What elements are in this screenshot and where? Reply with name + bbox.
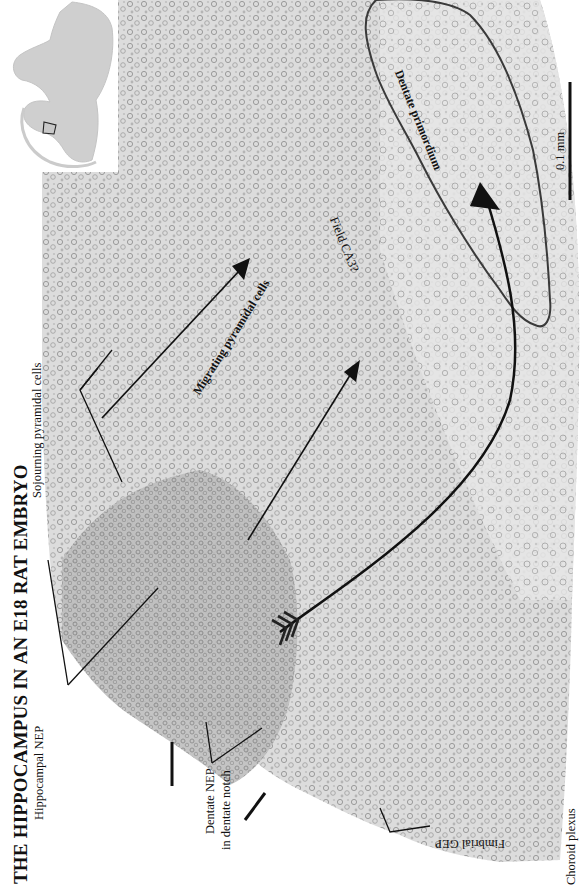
micrograph bbox=[0, 0, 583, 887]
figure-title: THE HIPPOCAMPUS IN AN E18 RAT EMBRYO bbox=[10, 464, 32, 884]
histology-figure: THE HIPPOCAMPUS IN AN E18 RAT EMBRYO Soj… bbox=[0, 0, 583, 887]
scale-bar-label: 0.1 mm bbox=[553, 132, 568, 170]
label-choroid-plexus: Choroid plexus bbox=[564, 808, 579, 885]
label-sojourning-pyramidal-cells: Sojourning pyramidal cells bbox=[30, 363, 45, 498]
label-dentate-notch: in dentate notch bbox=[219, 770, 234, 850]
label-dentate-nep: Dentate NEP bbox=[203, 768, 218, 834]
inset-overview bbox=[0, 0, 118, 172]
label-fimbrial-gep: Fimbrial GEP bbox=[425, 836, 515, 851]
label-hippocampal-nep: Hippocampal NEP bbox=[32, 726, 47, 820]
notch-mark-2 bbox=[245, 793, 265, 820]
